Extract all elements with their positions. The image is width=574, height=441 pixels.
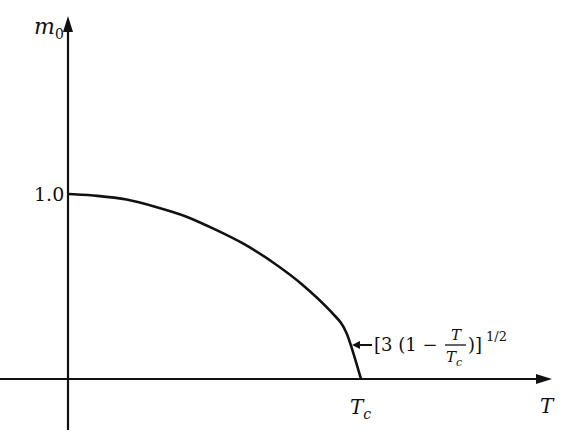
y-axis-label: m0 bbox=[34, 14, 64, 42]
order-parameter-chart: m0 1.0 Tc T [3 (1 − T Tc )] 1/2 bbox=[0, 0, 574, 441]
y-axis-arrow-icon bbox=[63, 16, 73, 32]
magnetization-curve bbox=[68, 194, 361, 379]
x-axis-arrow-icon bbox=[536, 374, 552, 384]
x-tick-label: Tc bbox=[350, 395, 371, 422]
x-axis-label: T bbox=[540, 394, 555, 418]
exponent: 1/2 bbox=[486, 329, 507, 344]
svg-text:[3 (1 −: [3 (1 − bbox=[374, 334, 437, 355]
annotation-formula: [3 (1 − T Tc )] 1/2 bbox=[374, 326, 507, 369]
fraction-denominator: Tc bbox=[446, 348, 462, 369]
annotation-arrow-icon bbox=[352, 341, 360, 349]
y-tick-label: 1.0 bbox=[34, 183, 64, 205]
fraction-numerator: T bbox=[451, 326, 462, 344]
svg-text:)]: )] bbox=[468, 334, 482, 355]
